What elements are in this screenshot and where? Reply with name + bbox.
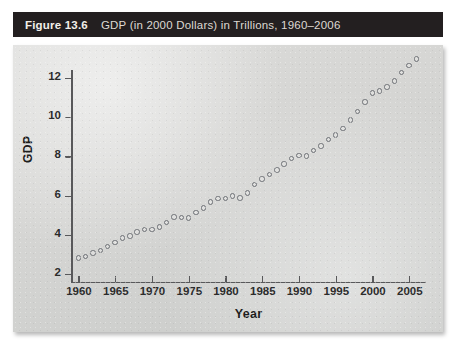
chart-plot-panel: 24681012 1960196519701975198019851990199… [13, 45, 443, 332]
y-tick-label: 2 [55, 266, 61, 278]
x-tick-1965: 1965 [115, 276, 116, 282]
y-tick-10: 10 [65, 117, 72, 118]
data-point [267, 172, 272, 177]
data-point [355, 109, 360, 114]
data-point [362, 99, 367, 104]
x-tick-label: 1960 [66, 285, 92, 297]
x-tick-label: 1965 [103, 285, 129, 297]
x-tick-label: 1980 [213, 285, 239, 297]
data-point [98, 248, 103, 253]
y-tick-2: 2 [65, 274, 72, 275]
data-point [414, 56, 419, 61]
data-point [384, 84, 389, 89]
data-point [281, 161, 286, 166]
y-tick-12: 12 [65, 78, 72, 79]
x-tick-1970: 1970 [152, 276, 153, 282]
x-tick-label: 1995 [323, 285, 349, 297]
y-tick-label: 10 [48, 109, 61, 121]
data-point [406, 63, 411, 68]
screenshot-root: Figure 13.6 GDP (in 2000 Dollars) in Tri… [0, 0, 470, 354]
data-point [274, 167, 279, 172]
x-tick-2000: 2000 [372, 276, 373, 282]
y-tick-8: 8 [65, 156, 72, 157]
data-point [142, 227, 147, 232]
data-point [230, 193, 235, 198]
data-point [112, 240, 117, 245]
x-tick-label: 2000 [360, 285, 386, 297]
x-tick-label: 1990 [287, 285, 313, 297]
figure-container: Figure 13.6 GDP (in 2000 Dollars) in Tri… [13, 12, 443, 332]
data-point [289, 156, 294, 161]
x-tick-label: 1975 [176, 285, 202, 297]
x-tick-1960: 1960 [78, 276, 79, 282]
data-point [304, 153, 309, 158]
figure-number-label: Figure 13.6 [25, 19, 88, 31]
data-point [90, 250, 95, 255]
data-point [296, 153, 301, 158]
data-point [179, 215, 184, 220]
data-point [193, 210, 198, 215]
data-point [201, 205, 206, 210]
data-point [370, 90, 375, 95]
data-point [377, 88, 382, 93]
data-point [245, 190, 250, 195]
data-point [83, 254, 88, 259]
x-tick-label: 2005 [397, 285, 423, 297]
y-tick-label: 12 [48, 70, 61, 82]
y-tick-6: 6 [65, 196, 72, 197]
data-point [392, 78, 397, 83]
data-point [399, 70, 404, 75]
data-point [326, 137, 331, 142]
data-point [252, 182, 257, 187]
x-axis-title: Year [71, 307, 426, 321]
x-tick-1985: 1985 [262, 276, 263, 282]
data-point [237, 195, 242, 200]
data-point [171, 214, 176, 219]
y-tick-4: 4 [65, 235, 72, 236]
data-point [259, 176, 264, 181]
x-tick-1975: 1975 [189, 276, 190, 282]
y-axis-title: GDP [21, 135, 35, 163]
data-point [76, 255, 81, 260]
data-point [318, 143, 323, 148]
data-point [134, 229, 139, 234]
data-point [348, 117, 353, 122]
data-point [223, 196, 228, 201]
data-point [120, 235, 125, 240]
x-tick-2005: 2005 [409, 276, 410, 282]
data-point [340, 126, 345, 131]
data-point [186, 215, 191, 220]
x-tick-label: 1985 [250, 285, 276, 297]
data-point [208, 199, 213, 204]
y-tick-label: 4 [55, 227, 61, 239]
y-axis-line [71, 70, 73, 283]
y-tick-label: 8 [55, 148, 61, 160]
x-tick-label: 1970 [140, 285, 166, 297]
data-point [333, 132, 338, 137]
x-tick-1990: 1990 [299, 276, 300, 282]
data-point [215, 196, 220, 201]
y-tick-label: 6 [55, 188, 61, 200]
x-tick-1995: 1995 [336, 276, 337, 282]
data-point [127, 233, 132, 238]
data-point [105, 244, 110, 249]
data-point [149, 227, 154, 232]
data-point [157, 224, 162, 229]
x-tick-1980: 1980 [225, 276, 226, 282]
data-point [311, 148, 316, 153]
data-point [164, 220, 169, 225]
figure-title-bar: Figure 13.6 GDP (in 2000 Dollars) in Tri… [13, 12, 443, 37]
figure-title-text: GDP (in 2000 Dollars) in Trillions, 1960… [101, 19, 341, 31]
